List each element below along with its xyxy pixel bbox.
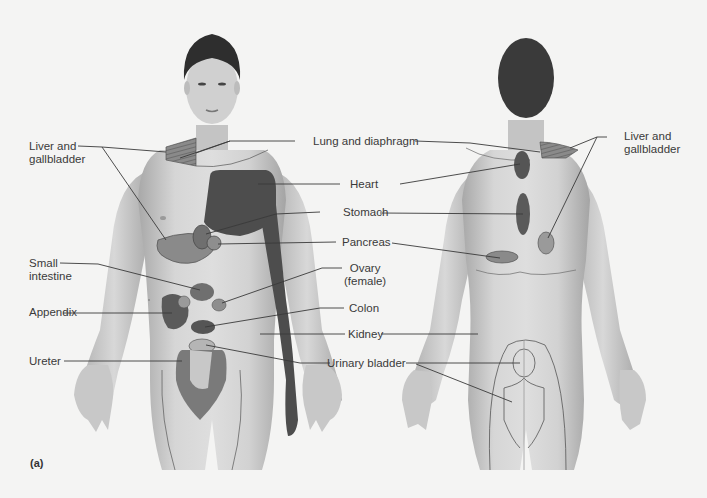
- front-figure: [74, 34, 342, 470]
- label-liver-front: Liver and gallbladder: [29, 140, 85, 166]
- front-left-hand: [74, 365, 113, 432]
- front-pancreas-region: [207, 236, 221, 250]
- back-head: [498, 38, 554, 118]
- front-ovary-region: [212, 299, 226, 311]
- label-liver-back: Liver and gallbladder: [624, 130, 680, 156]
- label-stomach: Stomach: [343, 206, 388, 219]
- label-colon: Colon: [349, 302, 379, 315]
- label-ureter: Ureter: [29, 355, 61, 368]
- back-figure: [402, 38, 646, 470]
- panel-label: (a): [30, 457, 43, 469]
- back-lung-region: [540, 142, 578, 158]
- label-pancreas: Pancreas: [342, 236, 391, 249]
- label-urinary-bladder: Urinary bladder: [327, 357, 406, 370]
- label-appendix: Appendix: [29, 306, 77, 319]
- front-colon-region: [191, 320, 215, 334]
- back-liver-region: [538, 232, 554, 254]
- label-heart: Heart: [350, 178, 378, 191]
- label-lung-diaphragm: Lung and diaphragm: [313, 135, 419, 148]
- front-small-intestine-region: [190, 283, 214, 301]
- label-ovary: Ovary (female): [344, 262, 386, 288]
- front-right-hand: [302, 365, 342, 432]
- label-small-intestine: Small intestine: [29, 257, 72, 283]
- label-kidney: Kidney: [348, 328, 383, 341]
- referred-pain-diagram: [0, 0, 707, 498]
